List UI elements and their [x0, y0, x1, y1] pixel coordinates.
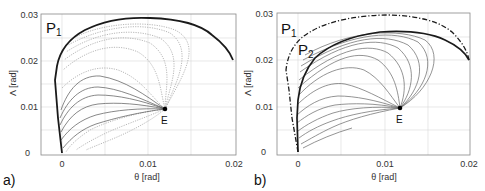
xtick-a-0.01: 0.01	[139, 159, 157, 169]
p2-boundary-b	[297, 31, 469, 152]
ylabel-a: Λ [rad]	[8, 70, 18, 96]
solid-trajectories-a	[60, 76, 165, 148]
ytick-a-0.03: 0.03	[20, 10, 38, 20]
p1-label-a: P1	[46, 19, 62, 38]
xtick-a-0: 0	[59, 159, 64, 169]
panel-label-a: a)	[3, 172, 15, 188]
xtick-b-0: 0	[295, 159, 300, 169]
ytick-b-0.03: 0.03	[255, 9, 273, 19]
plot-frame-a	[41, 14, 236, 155]
e-label-b: E	[396, 114, 403, 125]
xtick-a-0.02: 0.02	[225, 159, 243, 169]
panel-label-b: b)	[254, 172, 266, 188]
xtick-b-0.02: 0.02	[460, 159, 478, 169]
trajectories-b	[297, 33, 434, 148]
figure: E P1 0.03 0.02 0.01 0 0 0.01 0.02 θ [rad…	[0, 0, 485, 191]
ytick-b-0: 0	[261, 147, 266, 157]
e-label-a: E	[161, 115, 168, 126]
xtick-b-0.01: 0.01	[376, 159, 394, 169]
p2-label-b: P2	[298, 41, 314, 60]
panel-a: E P1 0.03 0.02 0.01 0 0 0.01 0.02 θ [rad…	[3, 10, 243, 188]
ytick-a-0.02: 0.02	[20, 56, 38, 66]
point-e-marker-a	[163, 107, 168, 112]
xlabel-a: θ [rad]	[134, 172, 160, 182]
ytick-a-0: 0	[25, 148, 30, 158]
ytick-b-0.01: 0.01	[255, 102, 273, 112]
ytick-b-0.02: 0.02	[255, 55, 273, 65]
panel-b: E P1 P2 0.03 0.02 0.01 0 0 0.01 0.02 θ […	[243, 9, 478, 188]
point-e-marker-b	[398, 106, 403, 111]
xlabel-b: θ [rad]	[371, 172, 397, 182]
p1-label-b: P1	[281, 20, 297, 39]
dotted-trajectories-a	[62, 24, 189, 152]
ytick-a-0.01: 0.01	[20, 102, 38, 112]
grid-a	[41, 14, 236, 155]
ylabel-b: Λ [rad]	[243, 70, 253, 96]
